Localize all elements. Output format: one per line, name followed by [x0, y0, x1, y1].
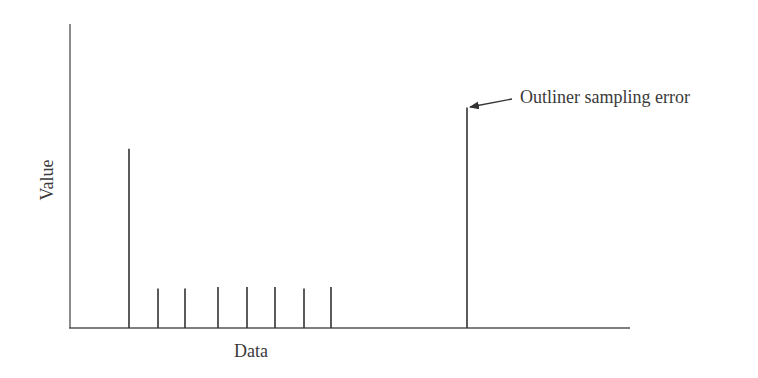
annotation-arrow [470, 99, 512, 107]
outlier-annotation: Outliner sampling error [520, 87, 690, 108]
stem-series [129, 108, 467, 328]
x-axis-label: Data [234, 341, 268, 362]
stem-chart [0, 0, 758, 378]
y-axis-label: Value [37, 160, 58, 201]
